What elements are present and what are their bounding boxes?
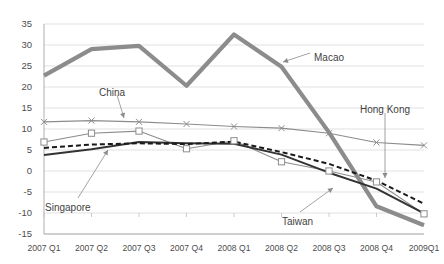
y-axis-tick-label: 10 xyxy=(8,123,32,134)
series-lines xyxy=(44,35,424,226)
leader-arrowhead xyxy=(120,112,125,118)
x-axis-tick-label: 2007 Q2 xyxy=(66,243,118,253)
gridlines xyxy=(44,24,424,234)
series-label-macao: Macao xyxy=(314,52,344,63)
data-point-marker xyxy=(326,168,332,174)
series-label-taiwan: Taiwan xyxy=(282,216,313,227)
data-point-marker xyxy=(41,139,47,145)
x-axis-tick-label: 2007 Q4 xyxy=(161,243,213,253)
annotation-leader-lines xyxy=(78,53,388,212)
data-point-marker xyxy=(278,159,284,165)
data-point-marker xyxy=(373,179,379,185)
y-axis-tick-label: 15 xyxy=(8,102,32,113)
x-axis-tick-label: 2008 Q2 xyxy=(256,243,308,253)
leader-arrowhead xyxy=(283,58,289,63)
y-axis-tick-label: 25 xyxy=(8,60,32,71)
data-point-marker xyxy=(183,146,189,152)
leader-arrowhead xyxy=(382,173,387,178)
data-point-marker xyxy=(136,128,142,134)
y-axis-tick-label: 20 xyxy=(8,81,32,92)
data-point-marker xyxy=(88,130,94,136)
x-axis-tick-label: 2008 Q4 xyxy=(351,243,403,253)
series-label-singapore: Singapore xyxy=(45,202,91,213)
y-axis-tick-label: 30 xyxy=(8,39,32,50)
series-label-china: China xyxy=(99,87,125,98)
y-axis-tick-label: 35 xyxy=(8,18,32,29)
x-axis-tick-label: 2008 Q3 xyxy=(303,243,355,253)
x-axis-tick-label: 2009Q1 xyxy=(398,243,444,253)
x-axis-tick-label: 2008 Q1 xyxy=(208,243,260,253)
y-axis-tick-label: -5 xyxy=(8,186,32,197)
series-label-hong-kong: Hong Kong xyxy=(360,104,410,115)
data-point-marker xyxy=(421,211,427,217)
data-point-marker xyxy=(231,138,237,144)
y-axis-tick-label: 5 xyxy=(8,144,32,155)
y-axis-tick-label: -10 xyxy=(8,207,32,218)
leader-arrowhead xyxy=(103,150,108,156)
leader-line xyxy=(78,150,108,198)
series-line-macao xyxy=(44,35,424,226)
x-axis-tick-label: 2007 Q3 xyxy=(113,243,165,253)
x-axis-tick-label: 2007 Q1 xyxy=(18,243,70,253)
y-axis-tick-label: 0 xyxy=(8,165,32,176)
y-axis-tick-label: -15 xyxy=(8,228,32,239)
